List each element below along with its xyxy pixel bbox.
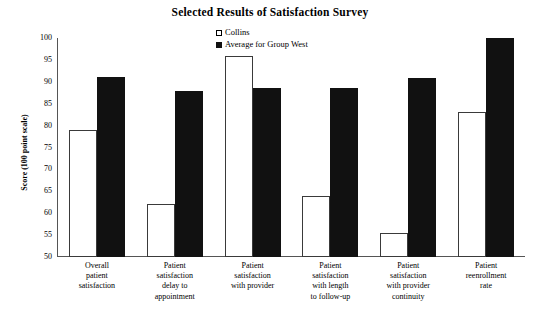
x-axis-category-line: Patient (292, 261, 370, 271)
x-axis-category-label: Patientsatisfactionwith providercontinui… (369, 261, 447, 302)
bar-group (458, 38, 514, 257)
bar-collins (69, 130, 97, 257)
bar-group (147, 38, 203, 257)
x-axis-category-line: Patient (136, 261, 214, 271)
x-axis-category-line: satisfaction (58, 281, 136, 291)
x-axis-category-line: with provider (369, 281, 447, 291)
y-axis-tick-labels: 10095908580757065605550 (24, 38, 52, 257)
x-axis-tick-labels: OverallpatientsatisfactionPatientsatisfa… (58, 261, 525, 313)
bar-collins (458, 112, 486, 257)
legend-label-collins: Collins (225, 28, 250, 37)
bars-layer (58, 38, 525, 257)
x-axis-category-line: continuity (369, 292, 447, 302)
bar-collins (380, 233, 408, 257)
x-axis-category-line: satisfaction (136, 271, 214, 281)
legend-swatch-hollow-square-icon (216, 30, 222, 36)
bar-group (380, 38, 436, 257)
x-axis-category-line: Patient (214, 261, 292, 271)
y-axis-tick-60: 60 (24, 209, 52, 217)
y-axis-tick-85: 85 (24, 100, 52, 108)
x-axis-category-line: satisfaction (292, 271, 370, 281)
legend-item-collins: Collins (216, 27, 366, 38)
x-axis-category-line: Patient (447, 261, 525, 271)
y-axis-tick-55: 55 (24, 231, 52, 239)
x-axis-category-line: appointment (136, 292, 214, 302)
bar-group-west (330, 88, 358, 257)
x-axis-category-line: to follow-up (292, 292, 370, 302)
bar-group-west (175, 91, 203, 257)
x-axis-category-line: with provider (214, 281, 292, 291)
x-axis-category-label: Patientsatisfactionwith provider (214, 261, 292, 292)
bar-group (69, 38, 125, 257)
y-axis-tick-95: 95 (24, 56, 52, 64)
bar-group-west (97, 77, 125, 257)
x-axis-category-line: reenrollment (447, 271, 525, 281)
x-axis-category-label: Patientsatisfactionwith lengthto follow-… (292, 261, 370, 302)
bar-collins (147, 204, 175, 257)
x-axis-category-line: satisfaction (214, 271, 292, 281)
y-axis-tick-75: 75 (24, 144, 52, 152)
x-axis-category-line: rate (447, 281, 525, 291)
bar-group-west (408, 78, 436, 257)
x-axis-category-line: patient (58, 271, 136, 281)
x-axis-category-label: Patientsatisfactiondelay toappointment (136, 261, 214, 302)
x-axis-category-line: delay to (136, 281, 214, 291)
y-axis-tick-65: 65 (24, 187, 52, 195)
x-axis-category-line: satisfaction (369, 271, 447, 281)
y-axis-tick-70: 70 (24, 165, 52, 173)
y-axis-tick-100: 100 (24, 34, 52, 42)
bar-group (225, 38, 281, 257)
x-axis-category-label: Overallpatientsatisfaction (58, 261, 136, 292)
x-axis-category-line: with length (292, 281, 370, 291)
bar-collins (302, 196, 330, 257)
bar-group-west (253, 88, 281, 257)
chart-title: Selected Results of Satisfaction Survey (0, 6, 540, 18)
x-axis-category-line: Overall (58, 261, 136, 271)
y-axis-tick-80: 80 (24, 122, 52, 130)
x-axis-category-label: Patientreenrollmentrate (447, 261, 525, 292)
y-axis-tick-50: 50 (24, 253, 52, 261)
bar-collins (225, 56, 253, 257)
bar-group (302, 38, 358, 257)
bar-group-west (486, 38, 514, 257)
y-axis-tick-90: 90 (24, 78, 52, 86)
x-axis-category-line: Patient (369, 261, 447, 271)
satisfaction-survey-chart: Selected Results of Satisfaction Survey … (0, 0, 540, 316)
